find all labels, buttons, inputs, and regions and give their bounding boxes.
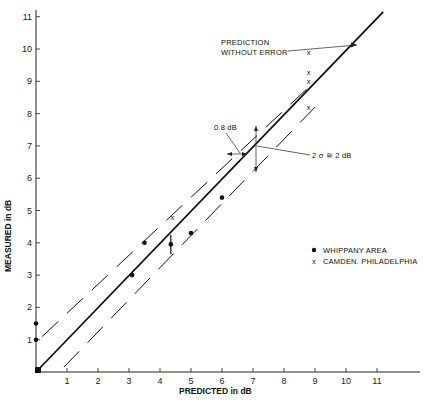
- x-tick-label: 10: [341, 376, 351, 386]
- upper-bound-line: [42, 81, 315, 336]
- prediction-line: [36, 12, 383, 372]
- whippany-point: [34, 337, 39, 342]
- x-tick-label: 6: [219, 376, 224, 386]
- arrowhead-icon: [227, 152, 232, 156]
- annotation-prediction-line2: WITHOUT ERROR: [221, 48, 288, 57]
- legend-dot-icon: [312, 248, 316, 252]
- legend-whippany: WHIPPANY AREA: [323, 246, 387, 255]
- annotation-2sigma: 2 σ ≅ 2 dB: [257, 146, 351, 160]
- y-tick-label: 2: [27, 302, 32, 312]
- camden-point: x: [307, 48, 311, 57]
- x-tick-label: 5: [188, 376, 193, 386]
- y-tick-label: 11: [23, 12, 32, 22]
- x-tick-label: 9: [312, 376, 317, 386]
- x-tick-label: 4: [157, 376, 162, 386]
- y-tick-label: 4: [27, 238, 32, 248]
- whippany-point: [142, 241, 147, 246]
- whippany-point: [189, 231, 194, 236]
- whippany-point: [35, 368, 40, 373]
- y-tick-label: 6: [27, 173, 32, 183]
- y-tick-label: 9: [27, 76, 32, 86]
- y-tick-label: 10: [22, 44, 32, 54]
- arrowhead-icon: [254, 126, 258, 131]
- camden-point: x: [307, 68, 311, 77]
- x-tick-label: 11: [372, 376, 381, 386]
- whippany-point: [220, 195, 225, 200]
- x-tick-label: 8: [281, 376, 286, 386]
- camden-point: x: [170, 213, 174, 222]
- reference-lines: [35, 12, 383, 373]
- legend-x-icon: x: [312, 257, 316, 266]
- annotation-2sigma-label: 2 σ ≅ 2 dB: [312, 151, 351, 160]
- x-tick-label: 2: [95, 376, 100, 386]
- y-tick-label: 8: [27, 109, 32, 119]
- legend-camden: CAMDEN. PHILADELPHIA: [323, 257, 417, 266]
- camden-point: x: [307, 103, 311, 112]
- annotation-08db-label: 0.8 dB: [214, 123, 237, 132]
- lower-bound-line: [64, 107, 315, 367]
- y-tick-label: 5: [27, 206, 32, 216]
- camden-point: x: [307, 77, 311, 86]
- whippany-point: [130, 273, 135, 278]
- y-tick-label: 1: [27, 335, 32, 345]
- annotation-prediction-line1: PREDICTION: [221, 38, 269, 47]
- whippany-point: [34, 321, 39, 326]
- x-tick-label: 3: [126, 376, 131, 386]
- data-points: xxxxx: [34, 48, 311, 372]
- scatter-chart: 12345678910111234567891011 PREDICTED in …: [0, 0, 428, 405]
- annotation-prediction: PREDICTION WITHOUT ERROR: [221, 38, 357, 57]
- y-tick-label: 3: [27, 270, 32, 280]
- axes: [36, 10, 420, 372]
- y-tick-label: 7: [27, 141, 32, 151]
- legend: WHIPPANY AREA x CAMDEN. PHILADELPHIA: [312, 246, 418, 266]
- y-axis-title: MEASURED in dB: [3, 200, 13, 272]
- x-axis-title: PREDICTED in dB: [179, 386, 252, 396]
- x-tick-label: 1: [64, 376, 69, 386]
- x-tick-label: 7: [250, 376, 255, 386]
